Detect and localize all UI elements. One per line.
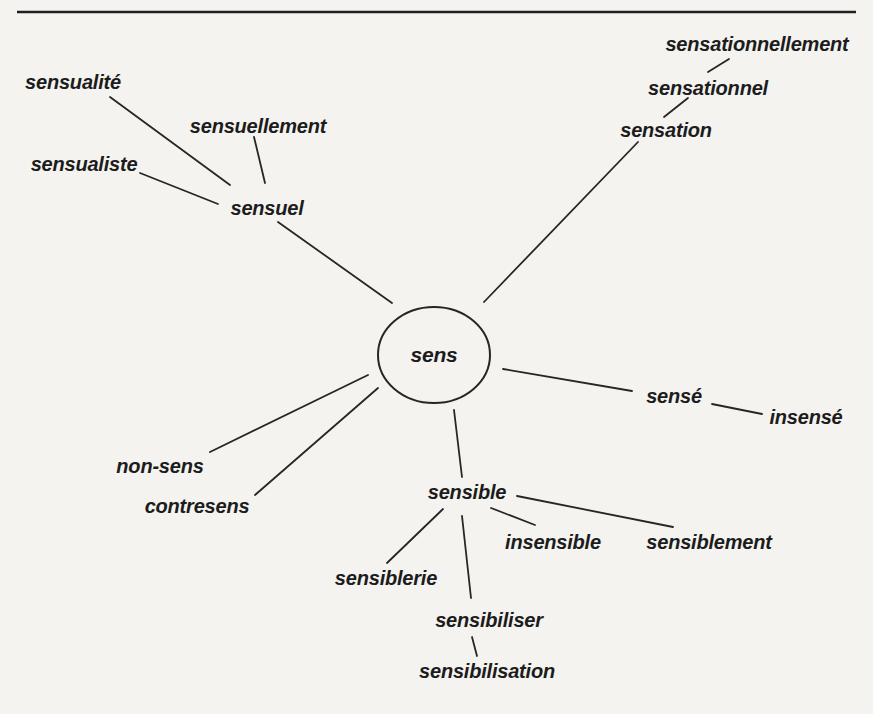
connector-line-sensible-sensiblement	[517, 496, 673, 527]
word-label-sensualiste: sensualiste	[31, 154, 138, 174]
connector-line-sens-sense	[503, 369, 632, 391]
word-label-contresens: contresens	[145, 496, 250, 516]
word-label-sens: sens	[410, 344, 457, 365]
connector-line-sensible-sensibiliser	[462, 516, 471, 598]
word-label-sense: sensé	[646, 386, 702, 406]
word-label-insense: insensé	[769, 407, 842, 427]
connector-line-sensation-sens	[484, 142, 638, 302]
word-label-sensuel: sensuel	[230, 198, 303, 218]
word-label-sensible: sensible	[428, 482, 506, 502]
word-label-insensible: insensible	[505, 532, 601, 552]
word-label-sensiblement: sensiblement	[646, 532, 771, 552]
word-label-sensibiliser: sensibiliser	[435, 610, 543, 630]
connector-line-sensation-sensationnel	[664, 98, 688, 117]
connector-line-sens-contresens	[255, 388, 378, 495]
word-label-sensualite: sensualité	[25, 72, 121, 92]
word-label-non-sens: non-sens	[116, 456, 203, 476]
word-label-sensation: sensation	[620, 120, 712, 140]
connector-line-sensuellement-sensuel	[254, 137, 265, 183]
connector-line-sens-non-sens	[210, 375, 368, 452]
connector-line-sensuel-sens	[278, 222, 392, 303]
connector-line-sens-sensible	[454, 410, 462, 477]
connector-line-sensibiliser-sensibilisation	[472, 637, 477, 656]
word-label-sensationnellement: sensationnellement	[665, 34, 848, 54]
word-label-sensuellement: sensuellement	[190, 116, 326, 136]
word-label-sensiblerie: sensiblerie	[335, 568, 437, 588]
connector-line-sensationnel-sensationnellement	[708, 59, 729, 72]
word-label-sensationnel: sensationnel	[648, 78, 768, 98]
connector-line-sense-insense	[712, 404, 762, 414]
connector-line-sensualiste-sensuel	[140, 173, 218, 204]
connector-line-sensible-insensible	[491, 508, 535, 525]
connector-line-sensible-sensiblerie	[387, 509, 443, 563]
scanned-page: senssensualitésensuellementsensualistese…	[0, 0, 873, 714]
word-label-sensibilisation: sensibilisation	[419, 661, 555, 681]
